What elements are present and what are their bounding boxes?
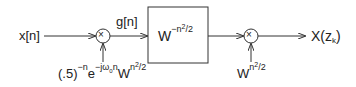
multiply-icon-2: × [246, 30, 252, 40]
chirp-z-block-diagram [0, 0, 356, 87]
output-label: X(zk) [311, 29, 341, 43]
premultiplier-label: (.5)−ne−jω0nWn2/2 [58, 67, 146, 80]
filter-label: W−n2/2 [158, 29, 193, 43]
multiply-icon-1: × [98, 30, 104, 40]
postmultiplier-label: Wn2/2 [237, 67, 266, 80]
input-label: x[n] [19, 29, 40, 42]
intermediate-label: g[n] [116, 15, 138, 28]
